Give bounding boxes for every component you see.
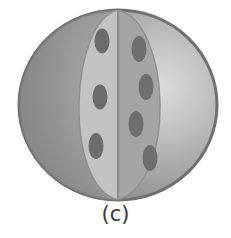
figure-caption: (c) — [0, 202, 231, 226]
spot — [139, 74, 154, 100]
spot — [95, 29, 110, 54]
spot — [132, 36, 147, 62]
spot — [129, 111, 144, 137]
spot — [143, 145, 158, 171]
sphere-diagram: (c) — [0, 0, 231, 238]
spot — [93, 85, 108, 110]
spot — [89, 133, 104, 159]
